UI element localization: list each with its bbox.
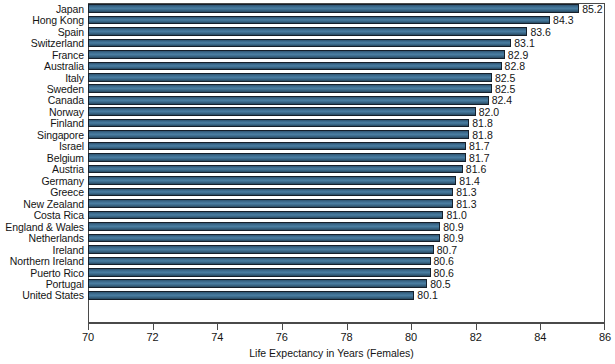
category-label: Switzerland (31, 38, 88, 49)
bar-value-label: 80.6 (431, 267, 454, 278)
bar[interactable] (88, 153, 466, 162)
bar-track: 80.1 (88, 290, 605, 301)
category-label: Canada (48, 95, 88, 106)
bar-value-label: 84.3 (550, 15, 573, 26)
x-tick-mark (153, 323, 154, 330)
bar-value-label: 81.3 (453, 187, 476, 198)
bar[interactable] (88, 50, 505, 59)
bar-row: Costa Rica81.0 (0, 209, 615, 220)
bar[interactable] (88, 176, 456, 185)
x-tick-label: 84 (534, 331, 546, 343)
bar[interactable] (88, 4, 579, 13)
bar[interactable] (88, 27, 527, 36)
bar-row: England & Wales80.9 (0, 221, 615, 232)
bar-value-label: 82.5 (492, 72, 515, 83)
category-label: Norway (49, 106, 88, 117)
bar[interactable] (88, 165, 463, 174)
category-label: Portugal (46, 278, 88, 289)
category-label: Italy (65, 72, 88, 83)
bar-track: 81.3 (88, 187, 605, 198)
x-tick-label: 70 (82, 331, 94, 343)
bar-track: 80.9 (88, 232, 605, 243)
bar[interactable] (88, 211, 443, 220)
bar-value-label: 80.5 (427, 278, 450, 289)
bar-track: 80.9 (88, 221, 605, 232)
bar-value-label: 85.2 (579, 3, 602, 14)
bar-track: 80.6 (88, 255, 605, 266)
category-label: France (52, 49, 88, 60)
bar-row: Netherlands80.9 (0, 232, 615, 243)
bar[interactable] (88, 39, 511, 48)
bar-row: United States80.1 (0, 290, 615, 301)
bar[interactable] (88, 257, 431, 266)
bar[interactable] (88, 96, 489, 105)
bar-row: New Zealand81.3 (0, 198, 615, 209)
bar-track: 80.5 (88, 278, 605, 289)
bar-row: Greece81.3 (0, 187, 615, 198)
bar-track: 80.7 (88, 244, 605, 255)
bar-row: Canada82.4 (0, 95, 615, 106)
x-tick-label: 86 (599, 331, 611, 343)
bar[interactable] (88, 16, 550, 25)
category-label: Finland (50, 118, 88, 129)
bar-track: 81.8 (88, 129, 605, 140)
bar-track: 81.8 (88, 118, 605, 129)
bar-value-label: 81.4 (456, 175, 479, 186)
bar-row: Belgium81.7 (0, 152, 615, 163)
bar-track: 84.3 (88, 14, 605, 25)
bar[interactable] (88, 234, 440, 243)
x-tick-label: 80 (405, 331, 417, 343)
bar-track: 81.4 (88, 175, 605, 186)
bar[interactable] (88, 199, 453, 208)
bar-row: Sweden82.5 (0, 83, 615, 94)
x-tick-mark (217, 323, 218, 330)
x-tick-label: 76 (276, 331, 288, 343)
category-label: Germany (42, 175, 88, 186)
bar-row: Portugal80.5 (0, 278, 615, 289)
bar-value-label: 82.4 (489, 95, 512, 106)
bar-value-label: 81.7 (466, 152, 489, 163)
bar[interactable] (88, 142, 466, 151)
bar[interactable] (88, 188, 453, 197)
category-label: Hong Kong (32, 15, 88, 26)
bar[interactable] (88, 245, 434, 254)
bar[interactable] (88, 73, 492, 82)
bar-track: 82.9 (88, 49, 605, 60)
life-expectancy-bar-chart: Japan85.2Hong Kong84.3Spain83.6Switzerla… (0, 0, 615, 364)
bar-value-label: 82.0 (476, 106, 499, 117)
category-label: Northern Ireland (10, 256, 88, 267)
bar-value-label: 80.9 (440, 221, 463, 232)
bar[interactable] (88, 222, 440, 231)
bar[interactable] (88, 62, 502, 71)
bar[interactable] (88, 268, 431, 277)
bar[interactable] (88, 291, 414, 300)
category-label: United States (22, 290, 88, 301)
bar-value-label: 82.5 (492, 84, 515, 95)
bar-track: 85.2 (88, 3, 605, 14)
x-tick-label: 74 (211, 331, 223, 343)
bar-track: 82.0 (88, 106, 605, 117)
bar[interactable] (88, 279, 427, 288)
x-axis-title: Life Expectancy in Years (Females) (0, 347, 615, 359)
category-label: Netherlands (28, 233, 88, 244)
x-tick-mark (476, 323, 477, 330)
category-label: Australia (44, 61, 88, 72)
bar-value-label: 81.7 (466, 141, 489, 152)
x-axis-title-text: Life Expectancy in Years (Females) (249, 347, 414, 359)
bar[interactable] (88, 119, 469, 128)
bar-track: 81.6 (88, 164, 605, 175)
bar-track: 82.5 (88, 72, 605, 83)
bar-row: Hong Kong84.3 (0, 14, 615, 25)
category-label: New Zealand (23, 198, 88, 209)
category-label: England & Wales (5, 221, 88, 232)
bar[interactable] (88, 130, 469, 139)
bar[interactable] (88, 84, 492, 93)
x-tick-mark (604, 323, 605, 330)
x-tick-mark (282, 323, 283, 330)
bar[interactable] (88, 107, 476, 116)
bar-track: 81.7 (88, 152, 605, 163)
x-tick-mark (411, 323, 412, 330)
bar-row: Ireland80.7 (0, 244, 615, 255)
bar-track: 81.3 (88, 198, 605, 209)
bar-value-label: 80.9 (440, 233, 463, 244)
